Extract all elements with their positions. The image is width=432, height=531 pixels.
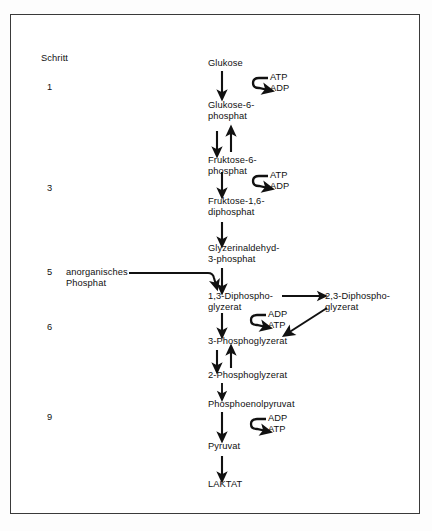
step-number-5: 5 [47,267,52,278]
cofactor-label-1-bottom: ADP [270,83,289,94]
metabolite-pyruvat: Pyruvat [208,441,240,452]
metabolite-2-phosphoglyzerat: 2-Phosphoglyzerat [208,370,287,381]
label-anorganisches-phosphat: anorganisches Phosphat [66,267,128,290]
step-number-1: 1 [47,82,52,93]
cofactor-label-4-bottom: ATP [268,424,285,435]
cofactor-label-1-top: ATP [270,72,287,83]
cofactor-label-3-bottom: ATP [268,320,285,331]
cofactor-label-3-top: ADP [268,309,287,320]
metabolite-1-3-diphosphoglyzerat: 1,3-Diphospho- glyzerat [208,291,273,314]
metabolite-3-phosphoglyzerat: 3-Phosphoglyzerat [208,336,287,347]
metabolite-glukose-6-phosphat: Glukose-6- phosphat [208,100,254,123]
cofactor-label-2-bottom: ADP [270,181,289,192]
step-number-3: 3 [47,183,52,194]
metabolite-laktat: LAKTAT [208,479,242,490]
metabolite-fruktose-6-phosphat: Fruktose-6- phosphat [208,155,257,178]
cofactor-label-2-top: ATP [270,170,287,181]
metabolite-glyzerinaldehyd-3-phosphat: Glyzerinaldehyd- 3-phosphat [208,243,279,266]
cofactor-label-4-top: ADP [268,413,287,424]
metabolite-fruktose-1-6-diphosphat: Fruktose-1,6- diphosphat [208,196,265,219]
glycolysis-figure: Schritt 1 3 5 6 9 anorganisches Phosphat… [0,0,432,531]
metabolite-phosphoenolpyruvat: Phosphoenolpyruvat [208,399,295,410]
steps-column-header: Schritt [41,53,68,64]
step-number-9: 9 [47,412,52,423]
step-number-6: 6 [47,322,52,333]
metabolite-2-3-diphosphoglyzerat: 2,3-Diphospho- glyzerat [325,291,390,314]
metabolite-glukose: Glukose [208,58,243,69]
